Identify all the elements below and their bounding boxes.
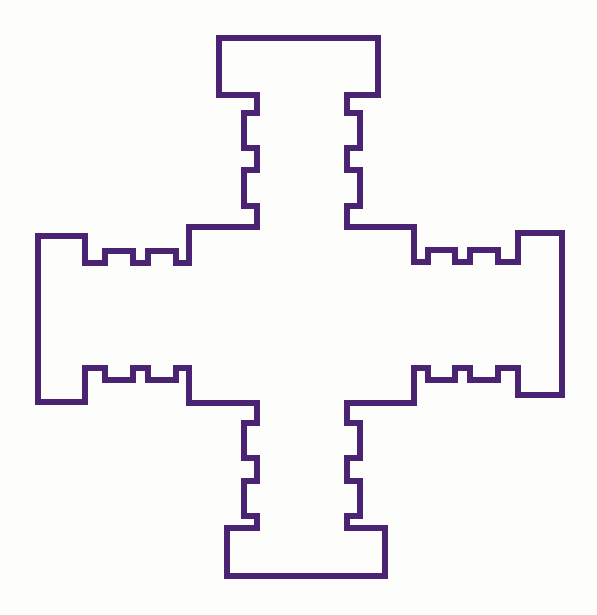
- canvas-background: [0, 0, 597, 615]
- stepped-cross-svg: [0, 0, 597, 615]
- figure-canvas: Stepped cross outline Hand-drawn closed …: [0, 0, 597, 615]
